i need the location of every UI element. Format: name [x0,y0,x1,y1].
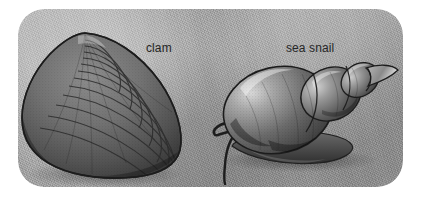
mollusk-illustration-figure: clam sea snail [0,0,431,200]
label-sea-snail: sea snail [286,41,334,55]
sea-snail-illustration [214,56,398,184]
illustration-canvas [0,0,431,200]
label-clam: clam [146,41,172,55]
